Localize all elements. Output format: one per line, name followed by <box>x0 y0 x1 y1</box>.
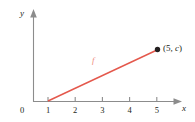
x-axis-arrowhead <box>174 98 183 105</box>
x-tick-label-5: 5 <box>151 106 163 115</box>
x-tick-label-3: 3 <box>96 106 108 115</box>
x-tick-label-4: 4 <box>124 106 136 115</box>
endpoint-coordinate-label: (5, c) <box>163 44 182 53</box>
figure-canvas <box>0 0 195 122</box>
function-line-f <box>48 50 157 101</box>
x-tick-label-2: 2 <box>69 106 81 115</box>
function-label-f: f <box>92 56 95 65</box>
x-axis-label: x <box>182 104 186 113</box>
y-axis-arrowhead <box>30 9 37 18</box>
x-tick-label-origin: 0 <box>16 106 28 115</box>
coordinate-plane-figure: y x 0 1 2 3 4 5 f (5, c) <box>0 0 195 122</box>
x-axis-ticks <box>48 97 157 102</box>
x-tick-label-1: 1 <box>42 106 54 115</box>
paren-close: ) <box>179 43 182 53</box>
endpoint-marker-dot <box>155 47 160 52</box>
y-axis-label: y <box>20 9 24 18</box>
